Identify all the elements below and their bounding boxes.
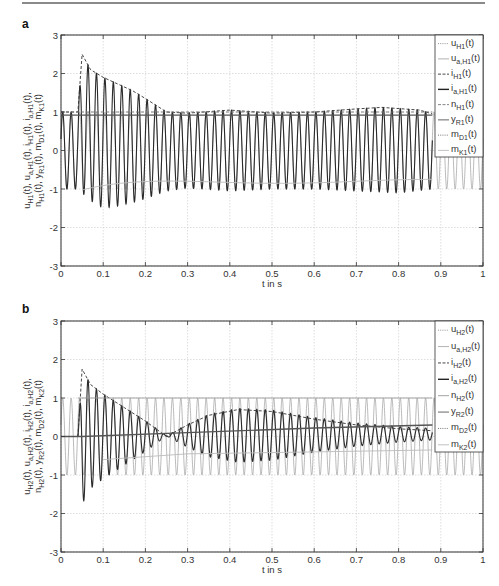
y-tick-label: -2 xyxy=(50,508,58,519)
legend-b: uH2(t)ua,H2(t)iH2(t)ia,H2(t)nH2(t)yR2(t)… xyxy=(435,321,483,452)
y-tick-label: 1 xyxy=(53,393,58,404)
series-i-a xyxy=(61,65,432,207)
x-tick-label: 0 xyxy=(58,268,63,279)
x-tick-label: 0.2 xyxy=(139,554,152,565)
plot-panel-a: 00.10.20.30.40.50.60.70.80.91-3-2-10123t… xyxy=(21,30,486,290)
y-tick-label: 2 xyxy=(53,68,58,79)
x-tick-label: 0.6 xyxy=(308,268,321,279)
y-tick-label: 0 xyxy=(53,431,58,442)
legend-a: uH1(t)ua,H1(t)iH1(t)ia,H1(t)nH1(t)yR1(t)… xyxy=(435,35,483,157)
x-tick-label: 0.1 xyxy=(97,268,110,279)
x-tick-label: 0.9 xyxy=(434,554,447,565)
x-tick-label: 0.8 xyxy=(392,268,405,279)
x-tick-label: 0 xyxy=(58,554,63,565)
x-tick-label: 0.6 xyxy=(308,554,321,565)
y-tick-label: -2 xyxy=(50,222,58,233)
x-tick-label: 0.7 xyxy=(350,268,363,279)
x-tick-label: 0.9 xyxy=(434,268,447,279)
series-i-envelope xyxy=(61,54,432,114)
y-tick-label: -1 xyxy=(50,184,58,195)
x-axis-title: t in s xyxy=(262,564,282,575)
x-tick-label: 0.1 xyxy=(97,554,110,565)
y-tick-label: 3 xyxy=(53,316,58,327)
y-tick-label: -3 xyxy=(50,547,58,558)
x-tick-label: 0.3 xyxy=(181,554,194,565)
x-tick-label: 1 xyxy=(480,554,485,565)
y-tick-label: 2 xyxy=(53,354,58,365)
x-tick-label: 1 xyxy=(480,268,485,279)
x-tick-label: 0.4 xyxy=(223,268,236,279)
y-tick-label: 1 xyxy=(53,107,58,118)
x-tick-label: 0.7 xyxy=(350,554,363,565)
y-tick-label: 0 xyxy=(53,145,58,156)
x-axis-title: t in s xyxy=(262,278,282,289)
x-tick-label: 0.3 xyxy=(181,268,194,279)
x-tick-label: 0.2 xyxy=(139,268,152,279)
y-tick-label: -1 xyxy=(50,470,58,481)
x-tick-label: 0.4 xyxy=(223,554,236,565)
plot-panel-b: 00.10.20.30.40.50.60.70.80.91-3-2-10123t… xyxy=(21,316,486,576)
x-tick-label: 0.8 xyxy=(392,554,405,565)
y-tick-label: 3 xyxy=(53,30,58,41)
y-tick-label: -3 xyxy=(50,261,58,272)
chart-canvas: 00.10.20.30.40.50.60.70.80.91-3-2-10123t… xyxy=(0,0,499,586)
